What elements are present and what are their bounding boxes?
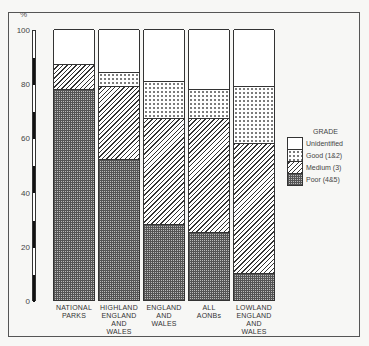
- segment-poor: [144, 224, 184, 300]
- segment-medium: [234, 143, 274, 273]
- segment-unidentified: [189, 29, 229, 89]
- legend-label-poor: Poor (4&5): [306, 176, 340, 183]
- y-tick-80: 80: [14, 80, 30, 89]
- legend-label-good: Good (1&2): [306, 152, 342, 159]
- segment-poor: [54, 89, 94, 300]
- segment-good: [99, 72, 139, 86]
- y-axis-unit: %: [20, 10, 27, 19]
- bar-national-parks: [53, 30, 95, 301]
- y-tick-20: 20: [14, 243, 30, 252]
- segment-medium: [189, 118, 229, 232]
- segment-medium: [144, 118, 184, 224]
- legend-label-unidentified: Unidentified: [306, 140, 343, 147]
- y-tick-100: 100: [14, 26, 30, 35]
- segment-unidentified: [99, 29, 139, 72]
- segment-poor: [189, 232, 229, 300]
- segment-good: [189, 89, 229, 119]
- bar-highland-england-and-wales: [98, 30, 140, 301]
- legend-title: GRADE: [313, 128, 338, 135]
- segment-medium: [54, 64, 94, 88]
- y-tick-60: 60: [14, 134, 30, 143]
- bar-england-and-wales: [143, 30, 185, 301]
- x-label-lowland: LOWLANDENGLANDANDWALES: [224, 304, 284, 336]
- bar-lowland-england-and-wales: [233, 30, 275, 301]
- segment-poor: [99, 159, 139, 300]
- legend-label-medium: Medium (3): [306, 164, 341, 171]
- y-tick-0: 0: [14, 297, 30, 306]
- segment-good: [144, 81, 184, 119]
- bar-all-aonbs: [188, 30, 230, 301]
- legend-swatch-poor: [287, 173, 303, 186]
- segment-good: [234, 86, 274, 143]
- segment-poor: [234, 273, 274, 300]
- segment-unidentified: [144, 29, 184, 80]
- y-tick-40: 40: [14, 189, 30, 198]
- segment-medium: [99, 86, 139, 159]
- segment-unidentified: [234, 29, 274, 86]
- y-axis-scale-bar: [32, 30, 36, 301]
- segment-unidentified: [54, 29, 94, 64]
